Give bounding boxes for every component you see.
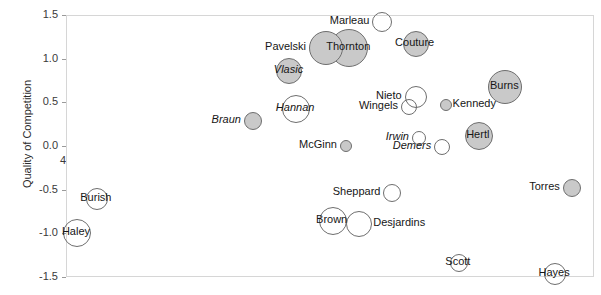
data-point-label: Haley [62, 226, 90, 237]
y-tick-mark [62, 277, 66, 278]
bubble-chart-figure: Quality of Competition 1.51.00.50.0-0.5-… [0, 0, 601, 295]
y-tick-label: -0.5 [12, 184, 58, 195]
y-tick-label: 0.5 [12, 96, 58, 107]
data-point-marker [563, 179, 581, 197]
data-point-label: Burns [490, 80, 519, 91]
data-point-label: Couture [395, 37, 434, 48]
data-point-label: Torres [529, 181, 560, 192]
data-point-label: Brown [316, 214, 347, 225]
data-point-label: Wingels [359, 100, 398, 111]
y-tick-label: 1.5 [12, 9, 58, 20]
data-point-marker [434, 139, 450, 155]
data-point-label: Hayes [539, 267, 570, 278]
data-point-marker [372, 12, 392, 32]
data-point-label: Pavelski [265, 41, 306, 52]
data-point-label: Thornton [326, 41, 370, 52]
data-point-label: Scott [445, 256, 470, 267]
data-point-label: Braun [212, 114, 241, 125]
data-point-label: Marleau [330, 15, 370, 26]
y-tick-label: -1.0 [12, 227, 58, 238]
data-point-label: Demers [393, 140, 432, 151]
data-point-label: Vlasic [274, 64, 303, 75]
data-point-marker [440, 99, 452, 111]
data-point-marker [244, 112, 262, 130]
data-point-marker [340, 140, 352, 152]
data-point-label: McGinn [299, 139, 337, 150]
data-point-label: Desjardins [373, 217, 425, 228]
y-tick-label: 1.0 [12, 53, 58, 64]
data-point-marker [346, 211, 372, 237]
y-tick-label: 0.0 [12, 140, 58, 151]
y-tick-label: -1.5 [12, 271, 58, 282]
data-point-label: Hannan [276, 102, 315, 113]
data-point-marker [401, 99, 417, 115]
data-point-label: Burish [80, 192, 111, 203]
data-point-label: Hertl [466, 129, 489, 140]
data-point-label: Sheppard [333, 186, 381, 197]
data-point-label: Kennedy [453, 98, 496, 109]
data-point-marker [383, 184, 401, 202]
